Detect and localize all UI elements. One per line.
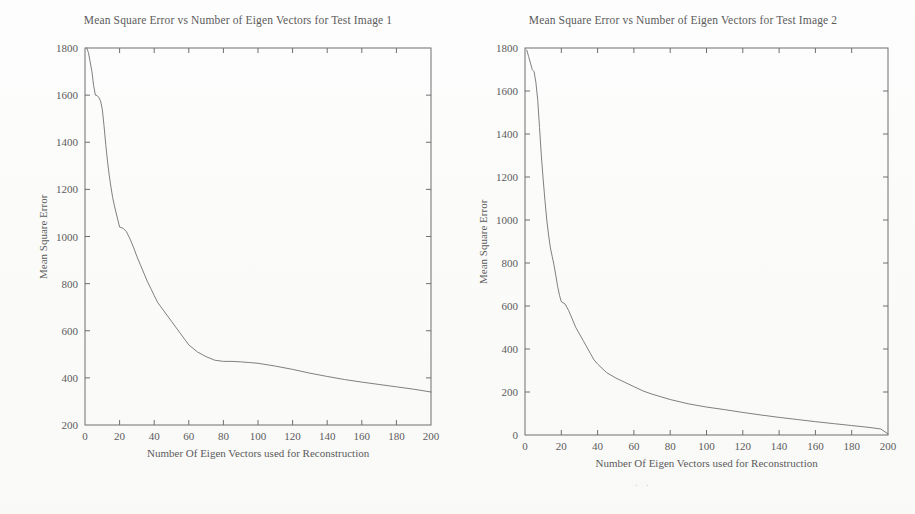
y-tick-label: 200 (62, 419, 79, 431)
x-tick-label: 180 (388, 430, 405, 442)
y-tick-label: 600 (62, 325, 79, 337)
plot-area-1: 0204060801001201401601802002004006008001… (0, 0, 470, 514)
x-tick-label: 20 (114, 430, 126, 442)
y-tick-label: 1400 (56, 136, 79, 148)
x-tick-label: 160 (807, 440, 824, 452)
x-tick-label: 140 (771, 440, 788, 452)
x-tick-label: 60 (183, 430, 195, 442)
x-axis-label-2: Number Of Eigen Vectors used for Reconst… (596, 457, 818, 469)
x-tick-label: 120 (284, 430, 301, 442)
y-tick-label: 200 (502, 386, 519, 398)
x-tick-label: 40 (592, 440, 604, 452)
x-tick-label: 160 (354, 430, 371, 442)
x-tick-label: 200 (423, 430, 440, 442)
x-tick-label: 180 (843, 440, 860, 452)
y-axis-label-2: Mean Square Error (477, 199, 489, 283)
figure-2: Mean Square Error vs Number of Eigen Vec… (445, 0, 915, 514)
y-tick-label: 600 (502, 300, 519, 312)
y-tick-label: 1400 (496, 128, 519, 140)
x-tick-label: 0 (522, 440, 528, 452)
x-tick-label: 60 (628, 440, 640, 452)
y-axis-label-1: Mean Square Error (37, 194, 49, 278)
x-tick-label: 200 (880, 440, 897, 452)
x-tick-label: 100 (250, 430, 267, 442)
data-series-line (87, 48, 431, 392)
x-tick-label: 20 (556, 440, 568, 452)
y-tick-label: 400 (62, 372, 79, 384)
y-tick-label: 800 (502, 257, 519, 269)
y-tick-label: 0 (513, 429, 519, 441)
scan-smudge: . . (635, 477, 652, 488)
y-tick-label: 400 (502, 343, 519, 355)
y-tick-label: 1200 (496, 171, 519, 183)
data-series-line (527, 50, 888, 434)
x-tick-label: 120 (735, 440, 752, 452)
y-tick-label: 800 (62, 278, 79, 290)
x-tick-label: 0 (82, 430, 88, 442)
x-tick-label: 100 (698, 440, 715, 452)
x-tick-label: 140 (319, 430, 336, 442)
x-axis-label-1: Number Of Eigen Vectors used for Reconst… (147, 447, 369, 459)
y-tick-label: 1600 (56, 89, 79, 101)
y-tick-label: 1800 (496, 42, 519, 54)
y-tick-label: 1800 (56, 42, 79, 54)
figure-1: Mean Square Error vs Number of Eigen Vec… (0, 0, 470, 514)
y-tick-label: 1200 (56, 183, 79, 195)
x-tick-label: 80 (218, 430, 230, 442)
x-tick-label: 40 (149, 430, 161, 442)
y-tick-label: 1000 (496, 214, 519, 226)
x-tick-label: 80 (665, 440, 677, 452)
y-tick-label: 1000 (56, 231, 79, 243)
y-tick-label: 1600 (496, 85, 519, 97)
plot-area-2: 0204060801001201401601802000200400600800… (445, 0, 915, 514)
